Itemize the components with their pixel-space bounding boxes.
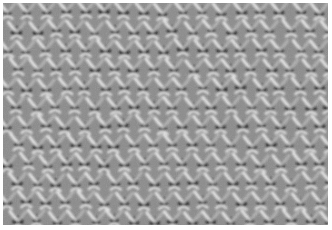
knit-texture <box>3 3 328 225</box>
knit-fabric-photo <box>3 3 328 225</box>
